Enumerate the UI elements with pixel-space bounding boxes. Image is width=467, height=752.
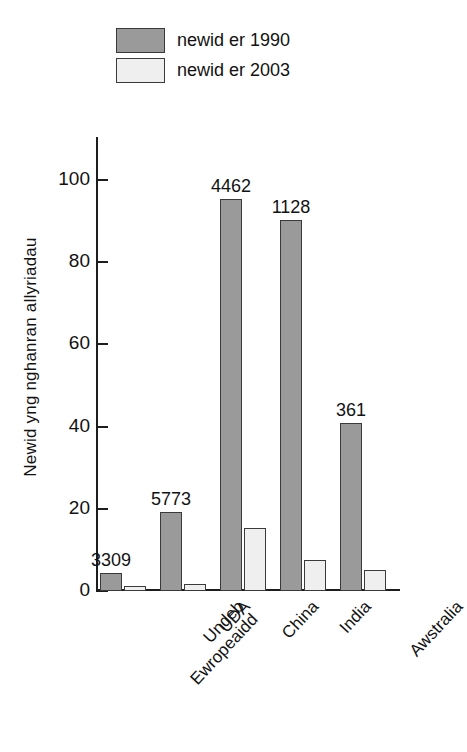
bar-2003	[304, 560, 326, 591]
y-axis-tick-label: 60	[69, 332, 90, 354]
x-axis-category-line: Awstralia	[406, 597, 467, 660]
bar-2003	[184, 584, 206, 591]
bar-value-label: 1128	[272, 197, 311, 218]
x-axis-category-label: India	[336, 597, 375, 637]
bar-1990: 4462	[220, 199, 242, 591]
y-axis-tick-label: 100	[58, 168, 90, 190]
legend-label-2003: newid er 2003	[177, 60, 290, 81]
legend-item-1990: newid er 1990	[116, 28, 290, 53]
bar-1990: 1128	[280, 220, 302, 591]
bar-1990: 3309	[100, 573, 122, 591]
bar-value-label: 3309	[91, 550, 131, 571]
bar-value-label: 361	[336, 400, 366, 421]
bar-value-label: 4462	[211, 176, 251, 197]
bar-1990: 5773	[160, 512, 182, 591]
x-axis-category-line: China	[278, 597, 322, 642]
y-axis-tick-label: 40	[69, 415, 90, 437]
x-axis-category-line: India	[336, 597, 375, 637]
chart-legend: newid er 1990 newid er 2003	[116, 28, 290, 88]
bar-2003	[124, 586, 146, 591]
bar-1990: 361	[340, 423, 362, 591]
x-axis-category-label: China	[278, 597, 322, 642]
y-axis-tick-label: 80	[69, 250, 90, 272]
legend-item-2003: newid er 2003	[116, 58, 290, 83]
legend-label-1990: newid er 1990	[177, 30, 290, 51]
legend-swatch-2003	[116, 58, 165, 83]
bar-2003	[364, 570, 386, 591]
bar-2003	[244, 528, 266, 591]
plot-area: 3309577344621128361	[96, 139, 396, 591]
legend-swatch-1990	[116, 28, 165, 53]
y-axis-tick-label: 0	[79, 579, 90, 601]
x-axis-category-label: Awstralia	[406, 597, 467, 660]
bar-value-label: 5773	[151, 489, 191, 510]
y-axis-title: Newid yng nghanran allyriadau	[14, 122, 48, 592]
y-axis-tick-label: 20	[69, 497, 90, 519]
